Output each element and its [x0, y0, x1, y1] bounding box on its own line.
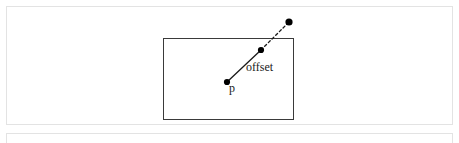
- offset-diagram-figure-panel: [6, 6, 453, 125]
- page-canvas: offset p: [0, 0, 459, 143]
- point-p-text-label: p: [229, 82, 235, 94]
- following-content-panel: [6, 133, 453, 143]
- offset-text-label: offset: [246, 61, 273, 73]
